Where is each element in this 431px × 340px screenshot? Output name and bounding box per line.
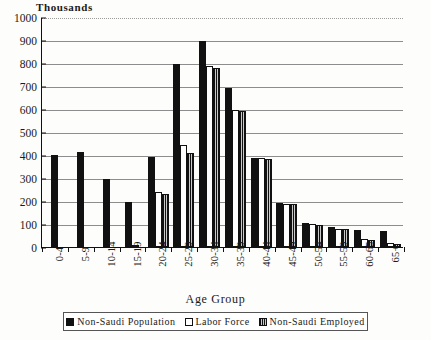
- x-axis-category-label: 35-39: [235, 241, 246, 267]
- bar: [251, 158, 258, 247]
- bar: [276, 203, 283, 247]
- x-axis-title: Age Group: [0, 292, 431, 307]
- solid-black-swatch: [66, 318, 74, 326]
- x-axis-category-label: 20-24: [157, 241, 168, 267]
- x-axis-category-label: 45-49: [287, 241, 298, 267]
- y-axis-tick-label: 0: [3, 242, 37, 254]
- plot-area: [41, 18, 403, 248]
- y-axis-tick: [41, 87, 46, 88]
- legend-item: Labor Force: [185, 316, 250, 327]
- gray-hatched-swatch: [259, 318, 267, 326]
- x-axis-category-label: 65+: [390, 245, 401, 262]
- bar-group: [145, 18, 171, 247]
- bar-group: [119, 18, 145, 247]
- legend-item: Non-Saudi Employed: [259, 316, 365, 327]
- bar-group: [197, 18, 223, 247]
- bar: [77, 152, 84, 247]
- x-axis-category: 5-9: [67, 252, 93, 294]
- x-axis-labels: 0-45-910-1415-1920-2425-2930-3435-3940-4…: [41, 252, 403, 294]
- x-axis-category-label: 60-65: [364, 241, 375, 267]
- y-axis-tick-label: 900: [3, 35, 37, 47]
- y-axis-tick: [41, 202, 46, 203]
- x-axis-category: 50-54: [300, 252, 326, 294]
- bar-group: [377, 18, 403, 247]
- bar-group: [300, 18, 326, 247]
- bar: [225, 88, 232, 247]
- y-axis-tick-label: 400: [3, 150, 37, 162]
- y-axis-tick: [41, 248, 46, 249]
- x-axis-category: 15-19: [119, 252, 145, 294]
- y-axis-tick-label: 500: [3, 127, 37, 139]
- bar: [354, 230, 361, 247]
- x-axis-category: 20-24: [144, 252, 170, 294]
- bar: [302, 223, 309, 247]
- y-axis-tick-label: 100: [3, 219, 37, 231]
- y-axis-tick: [41, 225, 46, 226]
- white-outline-swatch: [185, 318, 193, 326]
- x-axis-category: 35-39: [222, 252, 248, 294]
- bar: [180, 145, 187, 247]
- x-axis-category: 25-29: [170, 252, 196, 294]
- y-axis-tick-label: 300: [3, 173, 37, 185]
- bar: [232, 110, 239, 247]
- legend-item: Non-Saudi Population: [66, 316, 175, 327]
- x-axis-category-label: 55-59: [338, 241, 349, 267]
- x-axis-category-label: 40-44: [261, 241, 272, 267]
- bar: [51, 155, 58, 247]
- x-axis-category: 55-59: [325, 252, 351, 294]
- y-axis-tick-label: 200: [3, 196, 37, 208]
- x-axis-category-label: 15-19: [132, 241, 143, 267]
- y-axis-tick: [41, 179, 46, 180]
- x-axis-category-label: 50-54: [313, 241, 324, 267]
- x-axis-category: 10-14: [93, 252, 119, 294]
- y-axis-tick: [41, 156, 46, 157]
- x-axis-category-label: 0-4: [54, 247, 65, 262]
- legend-label: Non-Saudi Population: [77, 316, 175, 327]
- chart-figure: Thousands 010020030040050060070080090010…: [0, 0, 431, 340]
- y-axis-tick: [41, 133, 46, 134]
- bar-group: [248, 18, 274, 247]
- bar: [199, 41, 206, 247]
- bar: [148, 157, 155, 247]
- bar: [213, 68, 220, 247]
- bar-group: [326, 18, 352, 247]
- bar: [187, 153, 194, 247]
- x-axis-category-label: 5-9: [80, 247, 91, 262]
- bar: [162, 194, 169, 247]
- x-axis-category: 60-65: [351, 252, 377, 294]
- bar: [265, 159, 272, 247]
- legend-label: Labor Force: [196, 316, 250, 327]
- bar: [239, 111, 246, 247]
- chart-legend: Non-Saudi PopulationLabor ForceNon-Saudi…: [63, 312, 368, 331]
- bar: [173, 64, 180, 247]
- y-axis-tick-label: 600: [3, 104, 37, 116]
- bar-groups: [42, 18, 403, 247]
- bar: [380, 231, 387, 247]
- y-axis-tick: [41, 41, 46, 42]
- bar-group: [274, 18, 300, 247]
- y-axis-tick-label: 800: [3, 58, 37, 70]
- bar-group: [171, 18, 197, 247]
- y-axis-title: Thousands: [36, 1, 93, 13]
- y-axis-tick-label: 700: [3, 81, 37, 93]
- y-axis-tick: [41, 64, 46, 65]
- x-axis-category-label: 10-14: [106, 241, 117, 267]
- x-axis-category-label: 30-34: [209, 241, 220, 267]
- x-axis-category-label: 25-29: [183, 241, 194, 267]
- x-axis-category: 65+: [377, 252, 403, 294]
- bar: [258, 158, 265, 247]
- bar: [206, 66, 213, 247]
- bar-group: [94, 18, 120, 247]
- bar-group: [351, 18, 377, 247]
- bar: [155, 192, 162, 247]
- legend-label: Non-Saudi Employed: [270, 316, 365, 327]
- x-axis-category: 40-44: [248, 252, 274, 294]
- bar: [328, 227, 335, 247]
- x-axis-category: 45-49: [274, 252, 300, 294]
- bar-group: [68, 18, 94, 247]
- y-axis-tick: [41, 18, 46, 19]
- bar-group: [222, 18, 248, 247]
- x-axis-category: 0-4: [41, 252, 67, 294]
- y-axis-tick-label: 1000: [3, 12, 37, 24]
- x-axis-category: 30-34: [196, 252, 222, 294]
